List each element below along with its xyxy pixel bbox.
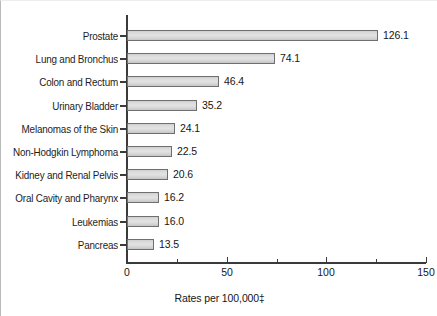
- bar-value-label: 22.5: [177, 145, 197, 158]
- bar-row: Non-Hodgkin Lymphoma22.5: [1, 145, 437, 159]
- category-tick-mark: [120, 174, 127, 176]
- category-label: Leukemias: [8, 215, 118, 229]
- bar: [127, 76, 219, 87]
- x-axis-title: Rates per 100,000‡: [1, 292, 437, 305]
- x-axis-title-text: Rates per 100,000: [174, 292, 259, 304]
- category-tick-mark: [120, 81, 127, 83]
- bar-row: Melanomas of the Skin24.1: [1, 122, 437, 136]
- bar-value-label: 16.2: [164, 191, 184, 204]
- bar-row: Kidney and Renal Pelvis20.6: [1, 168, 437, 182]
- category-label: Colon and Rectum: [8, 75, 118, 89]
- x-axis-tick-label: 100: [317, 266, 335, 278]
- bar-row: Pancreas13.5: [1, 238, 437, 252]
- bar: [127, 30, 378, 41]
- bar-row: Leukemias16.0: [1, 215, 437, 229]
- category-label: Kidney and Renal Pelvis: [8, 168, 118, 182]
- bar: [127, 169, 168, 180]
- category-tick-mark: [120, 128, 127, 130]
- x-axis-major-tick: [227, 257, 228, 263]
- category-label: Lung and Bronchus: [8, 52, 118, 66]
- bar-value-label: 13.5: [159, 238, 179, 251]
- bar-value-label: 74.1: [280, 52, 300, 65]
- bar: [127, 123, 175, 134]
- category-label: Non-Hodgkin Lymphoma: [8, 145, 118, 159]
- bar: [127, 146, 172, 157]
- double-dagger-symbol: ‡: [259, 293, 264, 304]
- category-label: Oral Cavity and Pharynx: [8, 191, 118, 205]
- category-tick-mark: [120, 35, 127, 37]
- x-axis-tick-label: 0: [124, 266, 130, 278]
- category-tick-mark: [120, 151, 127, 153]
- category-tick-mark: [120, 244, 127, 246]
- bar: [127, 239, 154, 250]
- bar-row: Oral Cavity and Pharynx16.2: [1, 191, 437, 205]
- x-axis-minor-tick: [376, 259, 377, 263]
- bar-value-label: 16.0: [164, 215, 184, 228]
- category-tick-mark: [120, 221, 127, 223]
- bar-row: Colon and Rectum46.4: [1, 75, 437, 89]
- bar-value-label: 126.1: [383, 29, 409, 42]
- x-axis-major-tick: [127, 257, 128, 263]
- x-axis-line: [126, 262, 426, 264]
- x-axis-tick-label: 50: [221, 266, 233, 278]
- x-axis-minor-tick: [277, 259, 278, 263]
- bar-value-label: 35.2: [202, 99, 222, 112]
- bar-value-label: 46.4: [224, 75, 244, 88]
- category-label: Urinary Bladder: [8, 99, 118, 113]
- bar-row: Urinary Bladder35.2: [1, 99, 437, 113]
- category-label: Pancreas: [8, 238, 118, 252]
- category-tick-mark: [120, 197, 127, 199]
- bar-chart-plot-area: Prostate126.1Lung and Bronchus74.1Colon …: [1, 1, 437, 316]
- x-axis-major-tick: [426, 257, 427, 263]
- category-label: Prostate: [8, 29, 118, 43]
- bar-value-label: 20.6: [173, 168, 193, 181]
- chart-screenshot: Prostate126.1Lung and Bronchus74.1Colon …: [0, 0, 437, 316]
- bar-value-label: 24.1: [180, 122, 200, 135]
- bar: [127, 100, 197, 111]
- x-axis-major-tick: [326, 257, 327, 263]
- bar: [127, 192, 159, 203]
- x-axis-tick-label: 150: [417, 266, 435, 278]
- bar: [127, 53, 275, 64]
- x-axis-minor-tick: [177, 259, 178, 263]
- bar-row: Lung and Bronchus74.1: [1, 52, 437, 66]
- bar: [127, 216, 159, 227]
- bar-row: Prostate126.1: [1, 29, 437, 43]
- category-label: Melanomas of the Skin: [8, 122, 118, 136]
- category-tick-mark: [120, 58, 127, 60]
- category-tick-mark: [120, 105, 127, 107]
